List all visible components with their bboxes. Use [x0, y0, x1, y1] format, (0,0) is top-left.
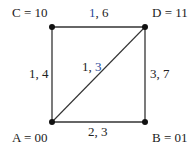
- node-label-d: D = 11: [152, 5, 188, 20]
- edge-label-c-d: 1, 6: [89, 5, 109, 20]
- edge-label-a-d-b: 3: [95, 59, 102, 74]
- edge-label-b-d-b: 7: [163, 66, 170, 81]
- edge-label-c-d-b: 6: [102, 5, 109, 20]
- node-b: [142, 119, 148, 125]
- edge-label-a-b: 2, 3: [88, 124, 108, 139]
- edge-a-d: [52, 27, 145, 122]
- edge-label-b-d: 3, 7: [150, 66, 170, 81]
- edge-label-a-c: 1, 4: [29, 66, 49, 81]
- edge-label-a-b-b: 3: [101, 124, 108, 139]
- node-label-a: A = 00: [12, 130, 48, 145]
- graph-diagram: C = 10 D = 11 A = 00 B = 01 1, 6 1, 4 3,…: [0, 0, 193, 148]
- node-a: [49, 119, 55, 125]
- edge-label-a-c-b: 4: [42, 66, 49, 81]
- node-d: [142, 24, 148, 30]
- node-label-b: B = 01: [152, 130, 188, 145]
- node-c: [49, 24, 55, 30]
- node-label-c: C = 10: [12, 5, 48, 20]
- edge-label-a-d: 1, 3: [82, 59, 102, 74]
